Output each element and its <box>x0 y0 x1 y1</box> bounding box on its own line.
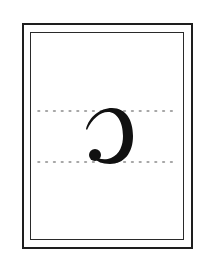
reversed-c-glyph-icon <box>80 100 140 170</box>
